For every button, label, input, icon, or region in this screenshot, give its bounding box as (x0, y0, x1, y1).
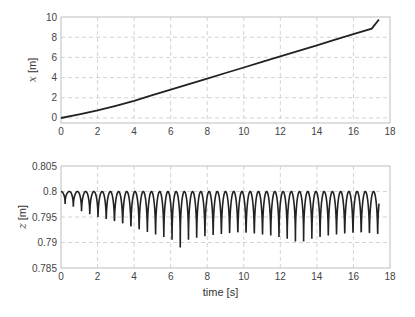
y-tick-label: 0.79 (38, 237, 58, 248)
y-tick-label: 0.785 (32, 263, 57, 274)
y-axis-label: x[m] (26, 58, 39, 83)
y-tick-label: 6 (51, 52, 57, 63)
x-tick-label: 8 (204, 126, 210, 137)
x-tick-label: 0 (58, 271, 64, 282)
y-tick-label: 0.8 (43, 186, 57, 197)
x-tick-label: 16 (348, 126, 360, 137)
y-tick-label: 0.795 (32, 212, 57, 223)
x-tick-label: 6 (168, 126, 174, 137)
y-tick-label: 2 (51, 92, 57, 103)
x-tick-label: 8 (204, 271, 210, 282)
y-tick-label: 8 (51, 32, 57, 43)
x-tick-label: 2 (95, 271, 101, 282)
x-tick-label: 4 (131, 271, 137, 282)
y-tick-label: 0 (51, 112, 57, 123)
y-axis-label: z[m] (16, 205, 29, 230)
x-position-axes: 0246810121416180246810x[m] (26, 12, 396, 138)
x-tick-label: 12 (275, 126, 287, 137)
y-tick-label: 4 (51, 72, 57, 83)
x-tick-label: 6 (168, 271, 174, 282)
x-tick-label: 14 (311, 126, 323, 137)
x-tick-label: 14 (311, 271, 323, 282)
y-tick-label: 0.805 (32, 161, 57, 172)
x-tick-label: 18 (384, 271, 396, 282)
x-tick-label: 16 (348, 271, 360, 282)
z-height-axes: 0246810121416180.7850.790.7950.80.805z[m… (16, 161, 396, 299)
x-tick-label: 0 (58, 126, 64, 137)
x-tick-label: 2 (95, 126, 101, 137)
x-axis-label: time [s] (203, 286, 238, 298)
x-tick-label: 18 (384, 126, 396, 137)
x-tick-label: 10 (238, 126, 250, 137)
figure: 0246810121416180246810x[m] 0246810121416… (0, 0, 415, 317)
x-tick-label: 12 (275, 271, 287, 282)
y-tick-label: 10 (46, 12, 58, 23)
x-tick-label: 4 (131, 126, 137, 137)
x-tick-label: 10 (238, 271, 250, 282)
